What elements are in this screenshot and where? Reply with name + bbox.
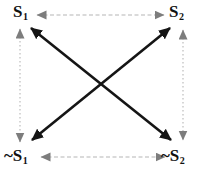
node-label-not-s1-prefix: ~ bbox=[4, 146, 13, 165]
node-label-not-s1: ~S1 bbox=[4, 146, 28, 170]
square-of-opposition-figure: S1 S2 ~S1 ~S2 bbox=[0, 0, 201, 176]
node-label-s2-base: S bbox=[169, 2, 178, 21]
node-label-not-s1-subscript: 1 bbox=[23, 155, 28, 166]
node-label-not-s2-base: S bbox=[170, 146, 179, 165]
node-label-not-s2-prefix: ~ bbox=[161, 146, 170, 165]
node-label-not-s2-subscript: 2 bbox=[180, 155, 185, 166]
node-label-s2-subscript: 2 bbox=[179, 11, 184, 22]
node-label-s1-subscript: 1 bbox=[23, 11, 28, 22]
node-label-s2: S2 bbox=[169, 2, 184, 26]
node-label-s1-base: S bbox=[13, 2, 22, 21]
node-label-not-s2: ~S2 bbox=[161, 146, 185, 170]
node-label-not-s1-base: S bbox=[13, 146, 22, 165]
node-label-s1: S1 bbox=[13, 2, 28, 26]
